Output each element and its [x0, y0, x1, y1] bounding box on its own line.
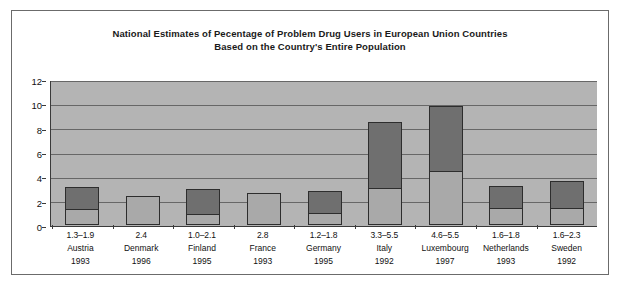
x-axis-label-country: Germany: [293, 242, 354, 255]
bar-luxembourg[interactable]: [429, 106, 463, 225]
x-axis-label-range: 4.6–5.5: [415, 229, 476, 242]
y-axis-tick-label: 2: [16, 197, 42, 208]
bar-segment-high: [66, 188, 98, 209]
x-axis-label-range: 1.2–1.8: [293, 229, 354, 242]
bar-slot: [52, 81, 113, 225]
x-axis-label-country: Italy: [354, 242, 415, 255]
x-axis-label-group: 3.3–5.5Italy1992: [354, 229, 415, 268]
bar-segment-high: [187, 190, 219, 214]
bar-segment-low: [551, 208, 583, 224]
x-axis-label-range: 1.0–2.1: [172, 229, 233, 242]
chart-title: National Estimates of Pecentage of Probl…: [12, 27, 608, 53]
plot-area: [50, 81, 597, 227]
x-axis-label-range: 2.4: [111, 229, 172, 242]
y-axis-tick-label: 4: [16, 173, 42, 184]
x-axis-label-year: 1996: [111, 255, 172, 268]
x-axis-label-year: 1997: [415, 255, 476, 268]
bar-slot: [476, 81, 537, 225]
y-axis-tick-mark: [42, 154, 46, 155]
x-axis-label-group: 1.6–2.3Sweden1992: [536, 229, 597, 268]
x-axis-label-year: 1992: [354, 255, 415, 268]
bar-slot: [355, 81, 416, 225]
x-axis-label-country: Sweden: [536, 242, 597, 255]
x-axis-label-range: 3.3–5.5: [354, 229, 415, 242]
bar-sweden[interactable]: [550, 181, 584, 225]
y-axis-tick-mark: [42, 227, 46, 228]
bar-slot: [415, 81, 476, 225]
bar-slot: [537, 81, 598, 225]
x-axis-label-year: 1993: [232, 255, 293, 268]
x-axis-label-year: 1992: [536, 255, 597, 268]
y-axis: 121086420: [16, 81, 46, 227]
x-axis-label-year: 1995: [172, 255, 233, 268]
chart-title-line-1: National Estimates of Pecentage of Probl…: [112, 28, 507, 39]
x-axis-label-year: 1995: [293, 255, 354, 268]
x-axis-label-group: 2.4Denmark1996: [111, 229, 172, 268]
x-axis-label-group: 1.2–1.8Germany1995: [293, 229, 354, 268]
x-axis-label-country: France: [232, 242, 293, 255]
bar-segment-low: [490, 208, 522, 224]
y-axis-tick-label: 6: [16, 149, 42, 160]
x-axis-label-country: Finland: [172, 242, 233, 255]
bar-slot: [234, 81, 295, 225]
x-axis-label-group: 1.3–1.9Austria1993: [50, 229, 111, 268]
x-axis-label-range: 1.6–2.3: [536, 229, 597, 242]
bar-france[interactable]: [247, 193, 281, 225]
x-axis-label-range: 1.3–1.9: [50, 229, 111, 242]
y-axis-tick-mark: [42, 130, 46, 131]
bar-segment-low: [309, 213, 341, 224]
y-axis-tick-label: 12: [16, 76, 42, 87]
y-axis-tick-mark: [42, 178, 46, 179]
y-axis-tick-mark: [42, 203, 46, 204]
bar-netherlands[interactable]: [489, 186, 523, 225]
x-axis-label-year: 1993: [50, 255, 111, 268]
y-axis-tick-mark: [42, 81, 46, 82]
y-axis-tick-label: 0: [16, 222, 42, 233]
x-axis-label-range: 1.6–1.8: [475, 229, 536, 242]
bar-italy[interactable]: [368, 122, 402, 225]
x-axis-label-year: 1993: [475, 255, 536, 268]
x-axis-label-group: 1.0–2.1Finland1995: [172, 229, 233, 268]
x-axis-labels: 1.3–1.9Austria19932.4Denmark19961.0–2.1F…: [50, 229, 597, 268]
bar-segment-high: [309, 192, 341, 213]
x-axis-label-group: 2.8France1993: [232, 229, 293, 268]
bar-segment-low: [369, 188, 401, 224]
bar-segment-single: [127, 197, 159, 224]
plot-wrap: 121086420: [50, 81, 597, 227]
x-axis-label-country: Luxembourg: [415, 242, 476, 255]
bar-germany[interactable]: [308, 191, 342, 225]
x-axis-label-group: 1.6–1.8Netherlands1993: [475, 229, 536, 268]
x-axis-label-group: 4.6–5.5Luxembourg1997: [415, 229, 476, 268]
chart-frame: National Estimates of Pecentage of Probl…: [11, 10, 609, 275]
x-axis-label-country: Netherlands: [475, 242, 536, 255]
bar-segment-single: [248, 194, 280, 224]
bar-slot: [173, 81, 234, 225]
bar-slot: [294, 81, 355, 225]
x-axis-label-country: Austria: [50, 242, 111, 255]
bar-segment-high: [490, 187, 522, 208]
y-axis-tick-label: 8: [16, 124, 42, 135]
bar-segment-high: [369, 123, 401, 188]
bar-segment-low: [66, 209, 98, 224]
x-axis-label-range: 2.8: [232, 229, 293, 242]
bar-austria[interactable]: [65, 187, 99, 225]
bar-series: [52, 81, 597, 225]
bar-slot: [113, 81, 174, 225]
y-axis-tick-mark: [42, 105, 46, 106]
x-axis-label-country: Denmark: [111, 242, 172, 255]
bar-segment-low: [430, 171, 462, 224]
y-axis-tick-label: 10: [16, 100, 42, 111]
bar-segment-high: [551, 182, 583, 208]
bar-segment-low: [187, 214, 219, 224]
bar-denmark[interactable]: [126, 196, 160, 225]
bar-finland[interactable]: [186, 189, 220, 225]
bar-segment-high: [430, 107, 462, 172]
chart-title-line-2: Based on the Country's Entire Population: [12, 40, 608, 53]
